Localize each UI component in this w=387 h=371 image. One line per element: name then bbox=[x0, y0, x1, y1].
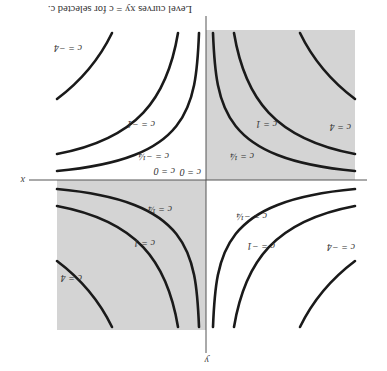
label-cm1-q2: c = −1 bbox=[247, 241, 275, 252]
label-c1-q3: c = 1 bbox=[256, 119, 277, 130]
label-c4-q3: c = 4 bbox=[330, 122, 351, 133]
label-c0-a: c = 0 bbox=[180, 167, 201, 178]
curve-c-neg-4-q2 bbox=[300, 261, 355, 327]
label-cm1-q4: c = −1 bbox=[127, 119, 155, 130]
label-cm4-q4: c = −4 bbox=[54, 43, 82, 54]
label-cq-q3: c = ¼ bbox=[230, 151, 254, 162]
curve-c-neg-1-q2 bbox=[234, 206, 355, 327]
level-curves-plot: x y c = 4 c = 1 c = ¼ c = 4 c = 1 c = ¼ … bbox=[0, 0, 387, 371]
label-c0-b: c = 0 bbox=[154, 166, 175, 177]
label-c1-q1: c = 1 bbox=[134, 238, 155, 249]
label-cm4-q2: c = −4 bbox=[327, 242, 355, 253]
label-c4-q1: c = 4 bbox=[61, 273, 82, 284]
x-axis-label: x bbox=[20, 175, 26, 186]
label-cq-q1: c = ¼ bbox=[148, 204, 172, 215]
label-cmq-q2: c = −¼ bbox=[236, 211, 267, 222]
level-curves-figure: x y c = 4 c = 1 c = ¼ c = 4 c = 1 c = ¼ … bbox=[0, 0, 387, 371]
y-axis-label: y bbox=[204, 355, 210, 366]
label-cmq-q4: c = −¼ bbox=[138, 151, 169, 162]
figure-caption: Level curves xy = c for selected c. bbox=[48, 4, 192, 15]
